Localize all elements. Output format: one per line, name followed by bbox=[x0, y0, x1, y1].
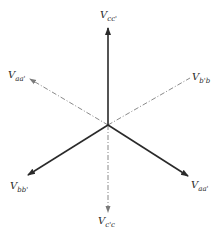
phasor-label-vbb: Vbb' bbox=[10, 181, 28, 191]
phasor-label-subscript: cc' bbox=[107, 15, 117, 23]
phasor-label-subscript: bb' bbox=[17, 186, 28, 194]
phasor-label-vcpc: Vc'c bbox=[98, 216, 115, 226]
phasor-label-vbpb: Vb'b bbox=[192, 72, 210, 82]
phasor-label-subscript: c'c bbox=[105, 221, 115, 229]
phasor-label-vaa: Vaa' bbox=[191, 180, 209, 190]
phasor-vbb-line bbox=[28, 125, 108, 175]
phasor-label-subscript: b'b bbox=[199, 77, 210, 85]
phasor-diagram-canvas bbox=[0, 0, 220, 240]
phasor-vbpb-line bbox=[108, 78, 190, 125]
phasor-vaa-line bbox=[108, 125, 188, 176]
phasor-label-subscript: aa' bbox=[198, 185, 208, 193]
phasor-vaa_neg-line bbox=[30, 79, 108, 125]
phasor-label-subscript: aa' bbox=[15, 75, 25, 83]
phasor-label-vaa_neg: Vaa' bbox=[8, 70, 26, 80]
phasor-label-vcc: Vcc' bbox=[100, 10, 117, 20]
